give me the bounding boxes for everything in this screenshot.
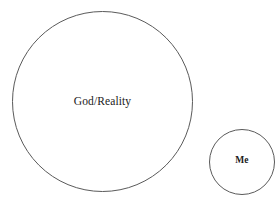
circle-me: Me — [209, 129, 275, 195]
circle-me-label: Me — [210, 156, 274, 166]
diagram-canvas: God/Reality Me — [0, 0, 280, 201]
circle-god-reality: God/Reality — [12, 11, 193, 192]
circle-god-reality-label: God/Reality — [13, 96, 192, 108]
